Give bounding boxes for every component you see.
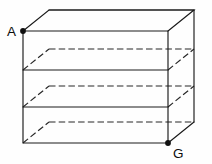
vertex-a-dot: [20, 28, 26, 34]
shelf-unit-line-drawing: A G: [0, 0, 212, 164]
shelf-unit-figure: A G: [0, 0, 212, 164]
vertex-g-label: G: [173, 146, 184, 161]
vertex-g-dot: [165, 140, 171, 146]
vertex-a-label: A: [7, 24, 16, 39]
